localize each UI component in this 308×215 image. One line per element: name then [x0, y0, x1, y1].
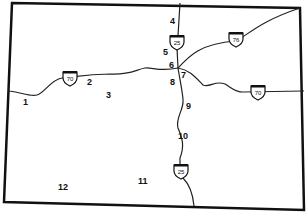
svg-text:76: 76: [233, 37, 240, 43]
point-label-12: 12: [58, 183, 68, 192]
svg-text:25: 25: [178, 169, 185, 175]
state-map: 70 70 76 25 25: [0, 0, 308, 215]
point-label-11: 11: [138, 177, 148, 186]
svg-text:70: 70: [255, 90, 262, 96]
point-label-3: 3: [106, 91, 111, 100]
point-label-6: 6: [169, 61, 174, 70]
point-label-4: 4: [170, 17, 175, 26]
point-label-8: 8: [170, 78, 175, 87]
interstate-25-shield-north: 25: [170, 35, 184, 50]
point-label-1: 1: [23, 98, 28, 107]
point-label-2: 2: [87, 78, 92, 87]
interstate-70-shield-east: 70: [251, 85, 265, 100]
point-label-7: 7: [181, 71, 186, 80]
point-label-5: 5: [163, 48, 168, 57]
svg-text:70: 70: [67, 76, 74, 82]
point-label-10: 10: [178, 132, 188, 141]
interstate-76-shield: 76: [229, 32, 243, 47]
interstate-25-shield-south: 25: [174, 164, 188, 179]
svg-text:25: 25: [174, 40, 181, 46]
interstate-70-shield-west: 70: [63, 71, 77, 86]
state-border: [4, 3, 304, 210]
point-label-9: 9: [186, 102, 191, 111]
